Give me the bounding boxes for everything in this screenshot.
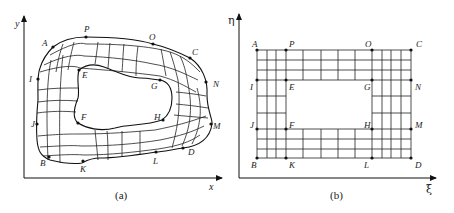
- label-D: D: [187, 147, 195, 157]
- label-F-b: F: [288, 120, 295, 130]
- label-A-b: A: [251, 39, 258, 49]
- caption-b: (b): [330, 189, 343, 202]
- label-O-b: O: [365, 39, 372, 49]
- rectangular-grid: [257, 50, 411, 158]
- label-H: H: [153, 112, 161, 122]
- label-P-b: P: [288, 39, 295, 49]
- point-labels: A P O C I E G N J F H M B K L D: [28, 24, 221, 174]
- label-B-b: B: [251, 160, 257, 170]
- label-M: M: [212, 121, 221, 131]
- y-axis-label: y: [14, 18, 20, 29]
- label-O: O: [149, 32, 156, 42]
- point-markers-b: [255, 48, 412, 159]
- label-C: C: [192, 47, 199, 57]
- label-D-b: D: [414, 160, 422, 170]
- label-K: K: [79, 164, 87, 174]
- label-G-b: G: [364, 82, 371, 92]
- point-markers: [35, 35, 212, 162]
- label-J: J: [31, 119, 36, 129]
- label-N: N: [212, 79, 220, 89]
- label-N-b: N: [414, 82, 422, 92]
- label-A: A: [41, 38, 48, 48]
- label-J-b: J: [250, 120, 255, 130]
- label-E: E: [81, 70, 88, 80]
- label-G: G: [151, 81, 158, 91]
- label-F: F: [80, 112, 87, 122]
- label-C-b: C: [416, 39, 423, 49]
- label-L-b: L: [363, 160, 369, 170]
- label-E-b: E: [288, 82, 295, 92]
- grid-mapping-figure: y x: [0, 0, 454, 213]
- curvilinear-grid: [37, 42, 208, 163]
- point-labels-b: A P O C I E G N J F H M B K L D: [249, 39, 423, 170]
- label-B: B: [40, 158, 46, 168]
- caption-a: (a): [115, 189, 128, 202]
- label-L: L: [152, 156, 158, 166]
- label-K-b: K: [288, 160, 296, 170]
- eta-axis-label: η: [228, 14, 235, 27]
- label-M-b: M: [414, 120, 423, 130]
- panel-b: η ξ: [228, 14, 436, 202]
- label-P: P: [83, 24, 90, 34]
- x-axis-label: x: [208, 181, 214, 192]
- panel-a: y x: [14, 16, 222, 202]
- xi-axis-label: ξ: [426, 183, 432, 196]
- label-I-b: I: [249, 82, 254, 92]
- label-I: I: [28, 74, 33, 84]
- label-H-b: H: [363, 120, 371, 130]
